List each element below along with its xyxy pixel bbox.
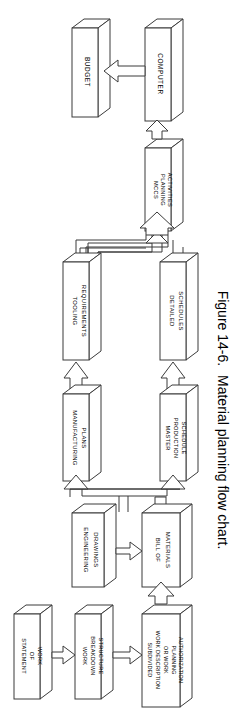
node-engineering-drawings-main: ENGINEERING DRAWINGS: [72, 504, 116, 587]
figure-caption: Figure 14-6. Material planning flow char…: [215, 291, 231, 550]
node-label-sow-main-l1: STATEMENT: [21, 638, 27, 674]
node-wbs-main: WORK BREAKDOWN STRUCTURE: [75, 605, 113, 699]
node-statement-of-work-main: STATEMENT OF WORK: [14, 605, 52, 699]
node-master-production-schedule-main: MASTER PRODUCTION SCHEDULE: [160, 385, 198, 481]
caption-text: Material planning flow chart.: [215, 375, 231, 549]
node-label-bom-main-l2: MATERIALS: [165, 532, 171, 569]
node-label-wbs-main-l2: BREAKDOWN: [90, 636, 96, 675]
node-label-mccs-l3: ACTIVITIES: [167, 173, 173, 207]
node-mccs-planning-activities-main: MCCS PLANNING ACTIVITIES: [145, 139, 183, 231]
node-label-subdivided-main-l3: OR WORK: [163, 646, 169, 674]
node-label-mps-main-l1: MASTER: [165, 425, 171, 450]
edge-wbs-to-subdivided-main: [113, 646, 142, 664]
node-label-detailed-main-l1: DETAILED: [169, 295, 175, 327]
merge-rails: [76, 235, 183, 253]
node-label-tooling-main-l1: TOOLING: [72, 296, 78, 325]
svg-text:Figure 14-6. Material pl: Figure 14-6. Material planning flow char…: [215, 291, 231, 550]
node-label-manufacturing-main-l2: PLANS: [81, 428, 87, 449]
node-label-subdivided-main-l2: WORK DESCRIPTION: [155, 631, 161, 689]
node-bill-of-materials-main: BILL OF MATERIALS: [142, 504, 192, 587]
node-tooling-requirements-main: TOOLING REQUIREMENTS: [63, 253, 101, 360]
node-detailed-schedules-main: DETAILED SCHEDULES: [160, 253, 198, 360]
edge-mccs-to-computer: [146, 120, 168, 139]
flow-chart-full: BUDGET COMPUTER MCCS PLANNING ACTIVITIES: [0, 0, 238, 723]
node-label-mccs-l2: PLANNING: [160, 174, 166, 206]
node-label-subdivided-main-l4: PLANNING: [171, 645, 177, 674]
edge-engineering-to-bom-main: [116, 542, 142, 560]
node-label-tooling-main-l2: REQUIREMENTS: [81, 285, 87, 337]
node-label-sow-main-l3: WORK: [37, 647, 43, 666]
node-label-engineering-main-l2: DRAWINGS: [93, 532, 99, 567]
node-label-subdivided-main-l5: AUTHORIZATION: [178, 637, 184, 683]
node-label-mps-main-l3: SCHEDULE: [181, 422, 187, 455]
node-label-manufacturing-main-l1: MANUFACTURING: [72, 410, 78, 465]
node-label-subdivided-main-l1: SUBDIVIDED: [147, 643, 153, 678]
node-manufacturing-plans-main: MANUFACTURING PLANS: [63, 385, 101, 481]
node-label-engineering-main-l1: ENGINEERING: [83, 527, 89, 573]
node-subdivided-work-main: SUBDIVIDED WORK DESCRIPTION OR WORK PLAN…: [142, 605, 192, 707]
node-label-budget: BUDGET: [84, 57, 91, 87]
caption-number: Figure 14-6.: [215, 291, 231, 366]
node-label-wbs-main-l3: STRUCTURE: [98, 637, 104, 674]
node-label-detailed-main-l2: SCHEDULES: [178, 291, 184, 331]
node-label-wbs-main-l1: WORK: [82, 647, 88, 666]
node-label-computer: COMPUTER: [157, 53, 164, 94]
node-label-mps-main-l2: PRODUCTION: [173, 418, 179, 459]
node-computer: COMPUTER: [145, 19, 183, 121]
edge-sow-to-wbs-main: [52, 646, 75, 664]
node-label-sow-main-l2: OF: [29, 652, 35, 661]
node-budget: BUDGET: [72, 19, 110, 117]
node-label-bom-main-l1: BILL OF: [155, 538, 161, 563]
node-label-mccs-l1: MCCS: [153, 181, 159, 199]
